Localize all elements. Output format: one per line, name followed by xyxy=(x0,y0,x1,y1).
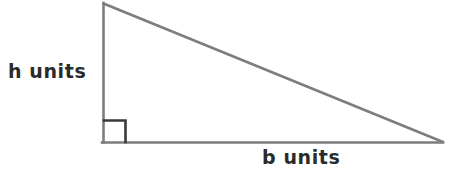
right-triangle-figure xyxy=(0,0,453,172)
height-label: h units xyxy=(8,62,86,81)
right-angle-marker-icon xyxy=(104,121,126,143)
hypotenuse-line xyxy=(104,4,444,143)
figure-canvas: h units b units xyxy=(0,0,453,172)
base-label: b units xyxy=(262,148,340,167)
